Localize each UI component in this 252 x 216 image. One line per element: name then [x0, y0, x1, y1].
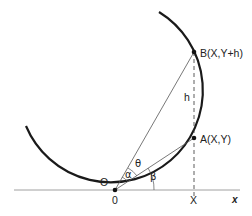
- label-beta: β: [150, 171, 156, 182]
- circle-arc: [26, 12, 203, 182]
- point-B: [192, 50, 197, 55]
- tick-label-zero: 0: [112, 194, 118, 206]
- diagram-canvas: O A(X,Y) B(X,Y+h) h α θ β 0 X x: [0, 0, 252, 216]
- label-origin: O: [100, 176, 108, 188]
- axis-label-x: x: [231, 194, 238, 205]
- point-A: [192, 136, 197, 141]
- point-O: [113, 188, 118, 193]
- line-O-A: [115, 138, 194, 190]
- label-point-A: A(X,Y): [200, 133, 231, 145]
- label-h: h: [184, 91, 190, 103]
- label-theta: θ: [135, 158, 141, 169]
- label-point-B: B(X,Y+h): [200, 47, 243, 59]
- label-alpha: α: [125, 169, 132, 180]
- tick-label-X: X: [190, 194, 197, 206]
